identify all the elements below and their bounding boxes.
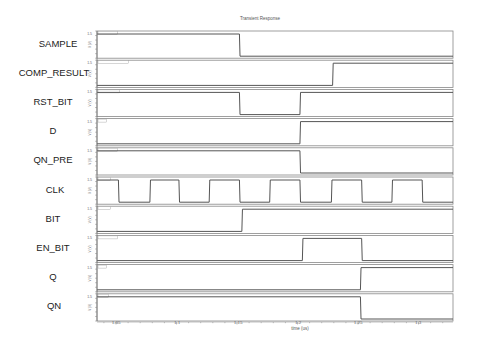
x-tick-label: 1.25: [346, 320, 370, 325]
x-tick-label: 1.05: [104, 320, 128, 325]
waveform-qn-pre: [97, 151, 453, 173]
panel-frame: [97, 31, 453, 58]
svg-text:1.5: 1.5: [87, 236, 92, 240]
panel-frame: [97, 119, 453, 146]
svg-text:1.5: 1.5: [87, 149, 92, 153]
signal-label-rst-bit: RST_BIT: [13, 96, 93, 107]
svg-text:1.5: 1.5: [87, 90, 92, 94]
panel-frame: [97, 235, 453, 262]
x-tick-label: 1.1: [165, 320, 189, 325]
waveform-d: [97, 122, 453, 144]
signal-label-en-bit: EN_BIT: [13, 242, 93, 253]
svg-text:1.5: 1.5: [87, 32, 92, 36]
panel-frame: [97, 148, 453, 175]
x-tick-label: 1.15: [226, 320, 250, 325]
svg-text:1.5: 1.5: [87, 61, 92, 65]
waveform-qn: [97, 297, 453, 319]
x-axis-label: time (us): [270, 326, 330, 331]
signal-label-d: D: [13, 125, 93, 136]
x-tick-label: 1.2: [286, 320, 310, 325]
panel-frame: [97, 89, 453, 116]
waveform-sample: [97, 34, 453, 56]
waveform-comp-result: [97, 63, 453, 85]
waveform-rst-bit: [97, 92, 453, 114]
svg-text:1.5: 1.5: [87, 207, 92, 211]
panel-frame: [97, 60, 453, 87]
svg-text:1.5: 1.5: [87, 266, 92, 270]
timing-diagram-plot: 1.5V (V)1.5V (V)1.5V (V)1.5V (V)1.5V (V)…: [0, 0, 477, 348]
signal-label-bit: BIT: [13, 213, 93, 224]
waveform-en-bit: [97, 238, 453, 260]
chart-title: Transient Response: [180, 16, 340, 21]
signal-label-q: Q: [13, 271, 93, 282]
panel-frame: [97, 294, 453, 321]
svg-text:1.5: 1.5: [87, 295, 92, 299]
svg-text:1.5: 1.5: [87, 120, 92, 124]
signal-label-qn: QN: [14, 300, 94, 311]
signal-label-clk: CLK: [15, 184, 95, 195]
waveform-q: [97, 268, 453, 290]
x-tick-label: 1.3: [406, 320, 430, 325]
signal-label-comp-result: COMP_RESULT: [14, 67, 94, 78]
waveform-bit: [97, 209, 453, 231]
svg-text:1.5: 1.5: [87, 178, 92, 182]
panel-frame: [97, 265, 453, 292]
waveform-clk: [97, 180, 453, 202]
signal-label-sample: SAMPLE: [18, 38, 98, 49]
panel-frame: [97, 206, 453, 233]
signal-label-qn-pre: QN_PRE: [13, 154, 93, 165]
